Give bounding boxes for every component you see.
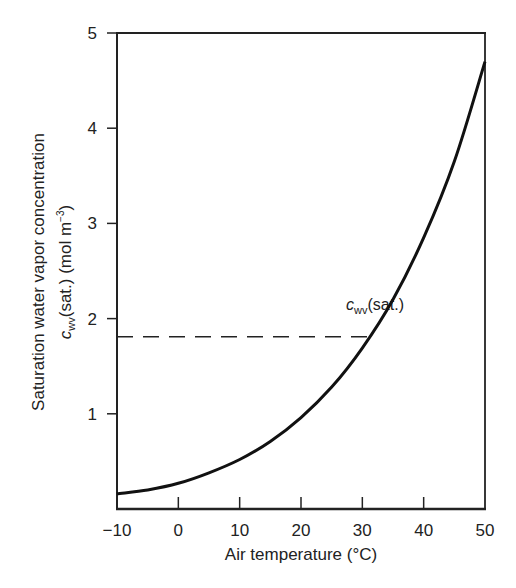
x-tick-label: 20 bbox=[292, 521, 311, 540]
curve-label-subscript: wv bbox=[353, 304, 368, 316]
y-tick-label: 4 bbox=[88, 119, 97, 138]
y-axis-ticks: 12345 bbox=[88, 24, 117, 424]
y-tick-label: 2 bbox=[88, 310, 97, 329]
y-axis-close: ) bbox=[56, 205, 75, 211]
x-tick-label: 30 bbox=[353, 521, 372, 540]
y-axis-subscript: wv bbox=[65, 317, 77, 332]
x-axis-title: Air temperature (°C) bbox=[225, 545, 377, 564]
x-tick-label: −10 bbox=[103, 521, 132, 540]
plot-frame bbox=[116, 33, 486, 509]
saturation-curve bbox=[117, 62, 485, 494]
y-axis-title-line1: Saturation water vapor concentration bbox=[29, 133, 48, 411]
annotations: cwv(sat.) bbox=[117, 296, 404, 336]
curve-label: cwv(sat.) bbox=[346, 296, 404, 316]
y-axis-title-line2: cwv(sat.) (mol m−3) bbox=[55, 205, 77, 339]
x-tick-label: 40 bbox=[414, 521, 433, 540]
curve-label-symbol: c bbox=[346, 296, 354, 313]
y-tick-label: 1 bbox=[88, 405, 97, 424]
y-tick-label: 5 bbox=[88, 24, 97, 43]
x-tick-label: 0 bbox=[174, 521, 183, 540]
x-tick-label: 10 bbox=[230, 521, 249, 540]
saturation-vapor-chart: −1001020304050 12345 cwv(sat.) Air tempe… bbox=[0, 0, 516, 588]
y-axis-superscript: −3 bbox=[55, 210, 66, 222]
x-tick-label: 50 bbox=[476, 521, 495, 540]
x-axis-ticks: −1001020304050 bbox=[103, 497, 495, 540]
y-tick-label: 3 bbox=[88, 214, 97, 233]
y-axis-unit: (sat.) (mol m bbox=[56, 222, 75, 317]
